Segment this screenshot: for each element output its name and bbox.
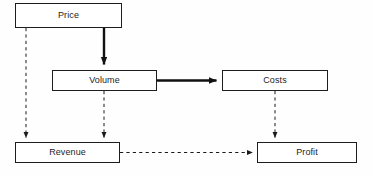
node-price[interactable]: Price: [15, 3, 122, 28]
node-revenue[interactable]: Revenue: [15, 142, 120, 163]
diagram-canvas: Price Volume Costs Revenue Profit: [0, 0, 373, 175]
node-volume[interactable]: Volume: [52, 70, 157, 91]
node-profit-label: Profit: [296, 148, 318, 157]
node-costs-label: Costs: [263, 76, 287, 85]
node-volume-label: Volume: [89, 76, 120, 85]
node-price-label: Price: [58, 11, 79, 20]
node-revenue-label: Revenue: [49, 148, 86, 157]
node-profit[interactable]: Profit: [257, 142, 357, 163]
node-costs[interactable]: Costs: [222, 70, 328, 91]
